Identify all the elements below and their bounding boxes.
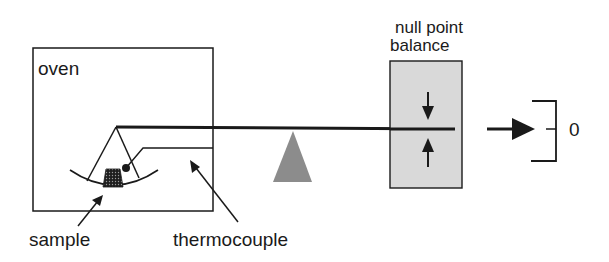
output-arrow-icon [487, 118, 535, 140]
oven-label: oven [38, 58, 79, 79]
balance-label-line1: null point [395, 18, 463, 37]
tga-diagram: oven sample thermocouple null point bala… [0, 0, 609, 262]
thermocouple [122, 148, 213, 172]
sample [103, 169, 123, 187]
fulcrum [273, 131, 312, 182]
sample-label: sample [29, 229, 90, 250]
output-gauge: 0 [531, 101, 580, 161]
thermocouple-label: thermocouple [173, 229, 288, 250]
thermocouple-pointer-arrow [190, 160, 238, 222]
output-zero-label: 0 [569, 119, 580, 140]
null-point-balance: null point balance [390, 18, 463, 188]
balance-box [390, 61, 462, 188]
balance-label-line2: balance [390, 36, 450, 55]
